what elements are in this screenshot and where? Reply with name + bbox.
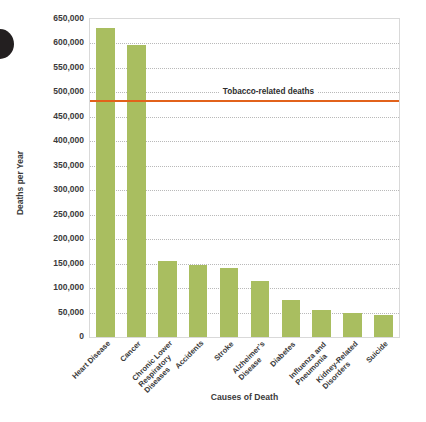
y-axis-title: Deaths per Year <box>15 128 25 238</box>
y-axis-tick-label: 600,000 <box>22 37 84 47</box>
y-axis-tick-label: 100,000 <box>22 282 84 292</box>
y-axis-tick-label: 350,000 <box>22 160 84 170</box>
y-axis-tick-label: 50,000 <box>22 307 84 317</box>
x-axis-tick-labels: Heart DiseaseCancerChronic Lower Respira… <box>0 338 426 390</box>
x-axis-tick-label: Stroke <box>213 340 236 363</box>
y-axis-tick-label: 450,000 <box>22 111 84 121</box>
y-axis-tick-label: 250,000 <box>22 209 84 219</box>
x-axis-tick-label: Suicide <box>365 340 390 365</box>
x-axis-tick-label: Diabetes <box>269 340 297 368</box>
y-axis-tick-label: 500,000 <box>22 86 84 96</box>
bar-chart: 050,000100,000150,000200,000250,000300,0… <box>0 0 426 422</box>
y-axis-tick-label: 650,000 <box>22 13 84 23</box>
y-axis-tick-label: 550,000 <box>22 62 84 72</box>
y-axis-tick-label: 300,000 <box>22 184 84 194</box>
tobacco-threshold-label: Tobacco-related deaths <box>219 87 318 96</box>
x-axis-tick-label: Heart Disease <box>71 340 113 382</box>
y-axis-tick-label: 200,000 <box>22 233 84 243</box>
x-axis-tick-label: Alzheimer's Disease <box>231 340 273 382</box>
x-axis-tick-label: Cancer <box>119 340 143 364</box>
x-axis-title: Causes of Death <box>89 392 400 402</box>
y-axis-tick-label: 400,000 <box>22 135 84 145</box>
y-axis-tick-label: 150,000 <box>22 258 84 268</box>
